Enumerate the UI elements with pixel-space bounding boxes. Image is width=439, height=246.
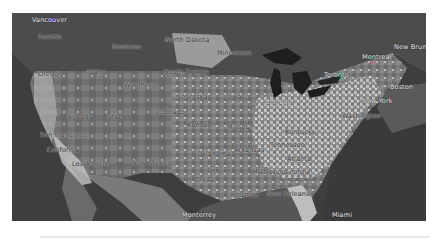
label-new-york: New York xyxy=(362,97,393,105)
label-chicago: Chicago xyxy=(265,98,292,106)
label-new-brunswick: New Brunswick xyxy=(394,43,426,51)
label-houston: Houston xyxy=(230,191,258,199)
label-san-francisco: San Francisco xyxy=(40,131,86,139)
label-montana: Montana xyxy=(112,43,141,51)
label-mississippi: Mississippi xyxy=(252,168,288,176)
label-oregon: Oregon xyxy=(38,70,62,78)
label-dallas: Dallas xyxy=(210,165,231,173)
label-miami: Miami xyxy=(332,211,352,219)
label-nevada: Nevada xyxy=(67,113,92,121)
label-kentucky: Kentucky xyxy=(285,128,315,136)
label-california: California xyxy=(47,146,79,154)
label-south-dakota: South Dakota xyxy=(164,68,209,76)
caption-placeholder xyxy=(40,236,430,240)
label-wyoming: Wyoming xyxy=(124,81,155,89)
label-minnesota: Minnesota xyxy=(217,49,251,57)
us-choropleth-map[interactable]: Vancouver Seattle Montana North Dakota O… xyxy=(12,13,426,221)
label-iowa: Iowa xyxy=(226,93,242,101)
label-arkansas: Arkansas xyxy=(234,146,264,154)
label-seattle: Seattle xyxy=(38,33,62,41)
label-boston: Boston xyxy=(390,83,413,91)
label-los-angeles: Los Angeles xyxy=(72,160,112,168)
label-texas: Texas xyxy=(195,176,213,184)
label-colorado: Colorado xyxy=(155,108,185,116)
label-utah: Utah xyxy=(107,113,123,121)
label-new-orleans: New Orleans xyxy=(267,190,309,198)
label-nebraska: Nebraska xyxy=(176,93,207,101)
label-washington: Washington xyxy=(342,112,381,120)
label-oklahoma: Oklahoma xyxy=(197,150,231,158)
label-idaho: Idaho xyxy=(87,68,106,76)
label-tennessee: Tennessee xyxy=(270,141,305,149)
label-north-dakota: North Dakota xyxy=(165,36,209,44)
label-monterrey: Monterrey xyxy=(182,211,216,219)
label-new-mexico: New Mexico xyxy=(132,159,172,167)
label-missouri: Missouri xyxy=(227,123,255,131)
label-atlanta: Atlanta xyxy=(287,155,311,163)
label-vancouver: Vancouver xyxy=(32,16,67,24)
label-toronto: Toronto xyxy=(324,71,349,79)
label-kansas: Kansas xyxy=(187,121,211,129)
label-montreal: Montreal xyxy=(362,53,391,61)
